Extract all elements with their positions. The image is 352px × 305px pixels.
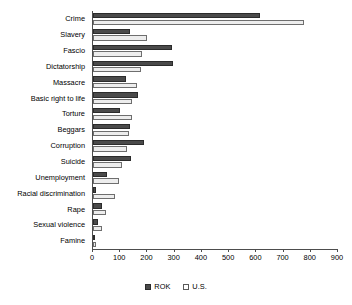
category-label: Sexual violence [0, 217, 89, 233]
bar-us [93, 99, 132, 104]
bar-row [93, 233, 338, 249]
bar-rok [93, 13, 260, 18]
category-label: Massacre [0, 74, 89, 90]
bar-row [93, 122, 338, 138]
legend-label: ROK [154, 283, 170, 290]
bar-row [93, 154, 338, 170]
bar-us [93, 67, 141, 72]
plot-area [92, 11, 338, 249]
category-label: Basic right to life [0, 90, 89, 106]
x-axis-tick-label: 600 [249, 254, 261, 261]
bar-rok [93, 140, 144, 145]
x-axis-tick-label: 900 [331, 254, 343, 261]
category-label: Dictatorship [0, 59, 89, 75]
category-label: Unemployment [0, 170, 89, 186]
bar-us [93, 210, 106, 215]
bar-row [93, 74, 338, 90]
legend-item-us: U.S. [183, 283, 206, 290]
x-axis-tick [283, 249, 284, 252]
legend-swatch-icon [145, 284, 151, 290]
category-label: Suicide [0, 154, 89, 170]
bar-row [93, 59, 338, 75]
x-axis-tick-label: 700 [276, 254, 288, 261]
bar-row [93, 11, 338, 27]
x-axis-tick [146, 249, 147, 252]
bar-row [93, 27, 338, 43]
category-label: Racial discrimination [0, 185, 89, 201]
x-axis-tick [337, 249, 338, 252]
bar-rok [93, 172, 107, 177]
x-axis-tick [310, 249, 311, 252]
x-axis-tick [255, 249, 256, 252]
x-axis-tick [92, 249, 93, 252]
bar-rok [93, 76, 126, 81]
legend-item-rok: ROK [145, 283, 170, 290]
category-label: Corruption [0, 138, 89, 154]
legend-label: U.S. [192, 283, 206, 290]
x-axis-line [92, 249, 337, 250]
bar-us [93, 146, 127, 151]
bar-rok [93, 203, 102, 208]
bar-rok [93, 92, 138, 97]
bar-us [93, 20, 304, 25]
bar-row [93, 106, 338, 122]
bar-us [93, 178, 119, 183]
bar-rok [93, 156, 131, 161]
category-label: Fascio [0, 43, 89, 59]
bar-rok [93, 187, 96, 192]
bar-us [93, 194, 115, 199]
bar-row [93, 201, 338, 217]
bar-rows [93, 11, 338, 249]
bar-rok [93, 61, 173, 66]
bar-us [93, 162, 122, 167]
bar-row [93, 185, 338, 201]
bar-us [93, 131, 129, 136]
bar-rok [93, 45, 172, 50]
bar-rok [93, 235, 95, 240]
bar-us [93, 51, 142, 56]
x-axis-tick [174, 249, 175, 252]
category-label: Crime [0, 11, 89, 27]
x-axis-tick-label: 200 [140, 254, 152, 261]
x-axis-tick [201, 249, 202, 252]
category-axis: Crime Slavery Fascio Dictatorship Massac… [0, 11, 89, 249]
x-axis-tick-label: 400 [195, 254, 207, 261]
bar-row [93, 170, 338, 186]
bar-us [93, 35, 147, 40]
category-label: Beggars [0, 122, 89, 138]
category-label: Famine [0, 233, 89, 249]
x-axis-tick-label: 300 [167, 254, 179, 261]
bar-row [93, 43, 338, 59]
chart-legend: ROK U.S. [0, 283, 352, 290]
x-axis-tick-label: 100 [113, 254, 125, 261]
x-axis-tick [228, 249, 229, 252]
bar-rok [93, 124, 130, 129]
x-axis-tick-label: 0 [90, 254, 94, 261]
legend-swatch-icon [183, 284, 189, 290]
category-label: Torture [0, 106, 89, 122]
bar-rok [93, 29, 130, 34]
bar-us [93, 115, 132, 120]
bar-us [93, 242, 96, 247]
x-axis-tick-label: 800 [304, 254, 316, 261]
bar-rok [93, 108, 120, 113]
bar-us [93, 83, 137, 88]
bar-rok [93, 219, 98, 224]
bar-row [93, 217, 338, 233]
horizontal-bar-chart: Crime Slavery Fascio Dictatorship Massac… [0, 0, 352, 305]
x-axis-tick-label: 500 [222, 254, 234, 261]
bar-us [93, 226, 102, 231]
bar-row [93, 90, 338, 106]
category-label: Slavery [0, 27, 89, 43]
category-label: Rape [0, 201, 89, 217]
bar-row [93, 138, 338, 154]
x-axis-tick [119, 249, 120, 252]
